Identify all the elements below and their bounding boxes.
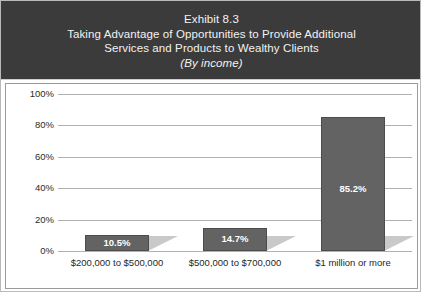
y-axis-tick-label: 20% [6, 214, 54, 225]
bar-shadow [148, 236, 178, 251]
y-axis-tick-label: 0% [6, 245, 54, 256]
bar-value-label: 10.5% [86, 237, 148, 248]
gridline [58, 251, 412, 252]
x-axis-category-label: $200,000 to $500,000 [58, 257, 176, 268]
bar-shadow [384, 236, 414, 251]
y-axis-tick-label: 40% [6, 182, 54, 193]
gridline [58, 94, 412, 95]
chart-figure: Exhibit 8.3 Taking Advantage of Opportun… [0, 0, 421, 292]
bar[interactable]: 10.5% [85, 235, 149, 251]
chart-title-line-3: Services and Products to Wealthy Clients [104, 41, 319, 56]
bar-shadow [266, 236, 296, 251]
bar[interactable]: 14.7% [203, 228, 267, 251]
y-axis-tick-label: 60% [6, 151, 54, 162]
plot-area: 10.5%14.7%85.2% [58, 94, 412, 251]
y-axis-tick-label: 80% [6, 119, 54, 130]
y-axis-tick-label: 100% [6, 88, 54, 99]
x-axis-category-label: $500,000 to $700,000 [176, 257, 294, 268]
bar-value-label: 85.2% [322, 183, 384, 194]
chart-title-line-1: Exhibit 8.3 [184, 12, 239, 27]
chart-title-line-2: Taking Advantage of Opportunities to Pro… [67, 27, 356, 42]
bar[interactable]: 85.2% [321, 117, 385, 251]
bar-value-label: 14.7% [204, 233, 266, 244]
chart-title-band: Exhibit 8.3 Taking Advantage of Opportun… [1, 1, 421, 80]
chart-subtitle: (By income) [180, 56, 242, 71]
x-axis-category-label: $1 million or more [294, 257, 412, 268]
